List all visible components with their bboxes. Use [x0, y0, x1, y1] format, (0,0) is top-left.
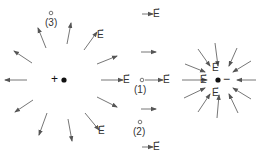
field-vector-label: →E: [212, 63, 219, 73]
negative-sign: −: [223, 73, 230, 85]
positive-sign: +: [51, 73, 58, 85]
point-1-label: (1): [134, 85, 146, 95]
field-vector-label: →E: [163, 75, 170, 85]
field-vector-label: →E: [98, 126, 105, 136]
field-vector-label: →E: [97, 30, 104, 40]
point-3-marker: [49, 11, 53, 15]
field-vector-label: →E: [153, 9, 160, 19]
point-2-label: (2): [133, 127, 145, 137]
field-vector-label: →E: [200, 75, 207, 85]
negative-charge-dot: [215, 77, 220, 82]
point-3-label: (3): [45, 18, 57, 28]
field-vector-label: →E: [153, 142, 160, 152]
point-2-marker: [138, 120, 142, 124]
point-1-marker: [140, 78, 144, 82]
field-vector-label: →E: [123, 75, 130, 85]
field-vector-label: →E: [212, 88, 219, 98]
positive-charge-dot: [61, 77, 66, 82]
